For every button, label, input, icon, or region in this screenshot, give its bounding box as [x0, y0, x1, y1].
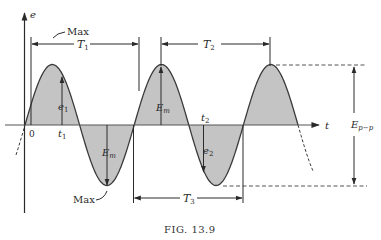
t2-label: t2 — [201, 112, 210, 125]
sine-waveform-figure: e t 0 T1 T2 T3 Max e1 t1 Em Max Em t2 e2… — [0, 0, 381, 240]
waveform-dashed-right — [298, 125, 313, 171]
T1-label: T1 — [77, 38, 89, 52]
origin-label: 0 — [29, 129, 35, 139]
figure-caption: FIG. 13.9 — [164, 224, 216, 235]
max-bottom-pointer — [96, 191, 107, 200]
x-axis-label: t — [325, 120, 330, 131]
T3-label: T3 — [183, 192, 195, 206]
waveform-dashed-left — [16, 125, 25, 155]
epp-label: Ep−p — [350, 119, 374, 132]
max-top-pointer — [53, 32, 65, 38]
max-top-label: Max — [67, 26, 89, 37]
t1-label: t1 — [58, 128, 67, 141]
max-bottom-label: Max — [73, 194, 95, 205]
T2-label: T2 — [203, 38, 215, 52]
y-axis-label: e — [30, 9, 36, 20]
